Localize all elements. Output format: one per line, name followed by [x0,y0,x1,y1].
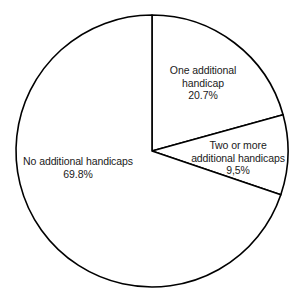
slice-label-line1: Two or more [182,139,294,152]
pie-chart-figure: One additional handicap 20.7% Two or mor… [0,0,294,299]
slice-label-line2: handicap [151,77,255,90]
slice-label-line1: One additional [151,64,255,77]
slice-value-one-additional-handicap: 20.7% [151,89,255,102]
slice-label-line2: additional handicaps [182,152,294,165]
slice-value-no-additional-handicaps: 69.8% [8,168,148,181]
slice-label-two-or-more-handicaps: Two or more additional handicaps 9,5% [182,139,294,177]
slice-label-line1: No additional handicaps [8,155,148,168]
slice-label-one-additional-handicap: One additional handicap 20.7% [151,64,255,102]
slice-value-two-or-more-handicaps: 9,5% [182,164,294,177]
slice-label-no-additional-handicaps: No additional handicaps 69.8% [8,155,148,180]
